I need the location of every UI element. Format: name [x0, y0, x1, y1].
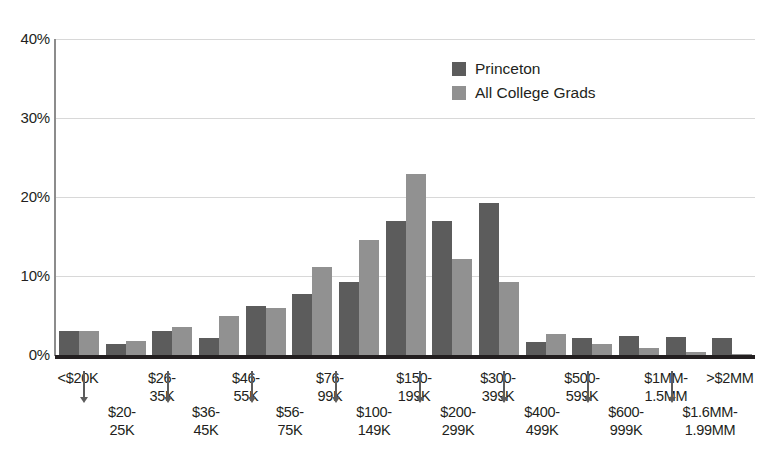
legend-label: Princeton	[475, 60, 540, 78]
x-tick-line2: 1.99MM	[673, 421, 747, 439]
x-tick-line2: 45K	[169, 421, 243, 439]
x-tick-label-top: $26-35K	[125, 369, 199, 405]
x-tick-line1: $500-	[545, 369, 619, 387]
bar-all-college-grads	[639, 348, 659, 355]
legend-swatch-icon	[452, 62, 466, 76]
bar-group	[199, 39, 246, 355]
x-tick-line1: $1.6MM-	[673, 403, 747, 421]
bar-princeton	[386, 221, 406, 355]
bar-princeton	[479, 203, 499, 355]
x-tick-label-bottom: $1.6MM-1.99MM	[673, 403, 747, 439]
x-tick-label-top: $500-599K	[545, 369, 619, 405]
arrow-head	[80, 397, 88, 403]
x-tick-line1: $150-	[377, 369, 451, 387]
x-tick-line2: 75K	[253, 421, 327, 439]
bar-group	[386, 39, 433, 355]
plot-area	[55, 39, 755, 355]
arrow-stem	[251, 371, 253, 399]
legend-item-all-college-grads: All College Grads	[452, 81, 596, 105]
bar-group	[106, 39, 153, 355]
arrow-head	[416, 397, 424, 403]
bar-group	[712, 39, 759, 355]
x-tick-label-bottom: $56-75K	[253, 403, 327, 439]
x-tick-label-bottom: $20-25K	[85, 403, 159, 439]
bar-princeton	[572, 338, 592, 355]
x-tick-line1: $26-	[125, 369, 199, 387]
arrow-head	[164, 397, 172, 403]
x-tick-line1: <$20K	[41, 369, 115, 387]
arrow-stem	[419, 371, 421, 399]
arrow-stem	[335, 371, 337, 399]
bar-group	[292, 39, 339, 355]
bar-all-college-grads	[592, 344, 612, 355]
x-tick-label-top: <$20K	[41, 369, 115, 387]
bar-all-college-grads	[79, 331, 99, 355]
x-tick-line2: 25K	[85, 421, 159, 439]
bar-group	[59, 39, 106, 355]
x-tick-line1: $300-	[461, 369, 535, 387]
bar-all-college-grads	[452, 259, 472, 355]
bar-princeton	[106, 344, 126, 355]
bar-group	[619, 39, 666, 355]
x-tick-label-top: $76-99K	[293, 369, 367, 405]
legend-label: All College Grads	[475, 84, 596, 102]
bar-princeton	[339, 282, 359, 355]
bar-all-college-grads	[359, 240, 379, 355]
bar-all-college-grads	[406, 174, 426, 355]
bar-princeton	[152, 331, 172, 355]
arrow-stem	[503, 371, 505, 399]
x-tick-line1: $400-	[505, 403, 579, 421]
x-tick-line1: $76-	[293, 369, 367, 387]
x-tick-label-top: $150-199K	[377, 369, 451, 405]
bar-chart: 40% 30% 20% 10% 0% Princeton All College…	[0, 0, 777, 459]
x-tick-line2: 999K	[589, 421, 663, 439]
arrow-stem	[167, 371, 169, 399]
bar-all-college-grads	[219, 316, 239, 355]
bar-all-college-grads	[126, 341, 146, 355]
x-tick-label-top: $300-399K	[461, 369, 535, 405]
legend-item-princeton: Princeton	[452, 57, 596, 81]
arrow-stem	[83, 371, 85, 399]
x-tick-label-top: >$2MM	[693, 369, 767, 387]
bar-princeton	[199, 338, 219, 355]
bar-princeton	[526, 342, 546, 355]
x-axis-labels: <$20K$26-35K$46-55K$76-99K$150-199K$300-…	[0, 359, 777, 459]
bar-all-college-grads	[172, 327, 192, 355]
arrow-stem	[671, 371, 673, 399]
y-tick-label: 40%	[4, 30, 50, 47]
x-tick-line1: $36-	[169, 403, 243, 421]
x-tick-label-top: $1MM-1.5MM	[629, 369, 703, 405]
x-tick-line2: 299K	[421, 421, 495, 439]
bar-princeton	[432, 221, 452, 355]
arrow-head	[668, 397, 676, 403]
bar-princeton	[619, 336, 639, 355]
x-tick-label-bottom: $600-999K	[589, 403, 663, 439]
x-tick-label-bottom: $36-45K	[169, 403, 243, 439]
arrow-head	[332, 397, 340, 403]
bar-all-college-grads	[546, 334, 566, 355]
y-tick-label: 10%	[4, 267, 50, 284]
x-tick-label-bottom: $400-499K	[505, 403, 579, 439]
bar-group	[246, 39, 293, 355]
x-tick-line1: $200-	[421, 403, 495, 421]
bar-group	[339, 39, 386, 355]
arrow-head	[584, 397, 592, 403]
bar-group	[666, 39, 713, 355]
bar-princeton	[292, 294, 312, 355]
y-tick-label: 20%	[4, 188, 50, 205]
x-tick-line1: $1MM-	[629, 369, 703, 387]
x-tick-line1: $20-	[85, 403, 159, 421]
bar-all-college-grads	[266, 308, 286, 355]
x-tick-line1: >$2MM	[693, 369, 767, 387]
arrow-stem	[587, 371, 589, 399]
x-tick-line1: $100-	[337, 403, 411, 421]
x-tick-line1: $56-	[253, 403, 327, 421]
x-tick-line2: 499K	[505, 421, 579, 439]
bar-group	[152, 39, 199, 355]
x-tick-label-top: $46-55K	[209, 369, 283, 405]
arrow-head	[500, 397, 508, 403]
legend-swatch-icon	[452, 86, 466, 100]
x-tick-line1: $46-	[209, 369, 283, 387]
x-tick-line2: 149K	[337, 421, 411, 439]
bar-all-college-grads	[499, 282, 519, 355]
